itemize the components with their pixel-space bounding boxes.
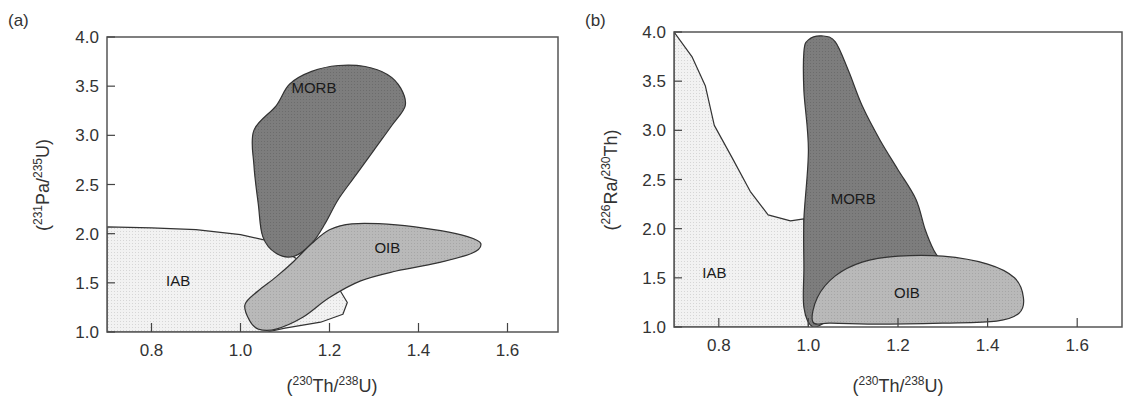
x-tick-label: 1.0 [229, 341, 253, 360]
region-label-morb: MORB [291, 79, 336, 96]
x-tick-label: 1.4 [407, 341, 431, 360]
y-tick-label: 2.0 [642, 220, 666, 239]
x-tick-label: 1.6 [1065, 336, 1089, 355]
region-label-morb: MORB [831, 190, 876, 207]
x-axis-title-a: (230Th/238U) [286, 374, 377, 396]
y-tick-label: 4.0 [75, 28, 99, 47]
regions-a [107, 65, 481, 332]
x-tick-label: 1.2 [886, 336, 910, 355]
y-tick-label: 3.0 [642, 121, 666, 140]
y-axis-title-b: (226Ra/230Th) [599, 129, 621, 230]
y-tick-label: 3.5 [642, 72, 666, 91]
y-tick-label: 2.5 [642, 171, 666, 190]
y-tick-label: 1.5 [75, 274, 99, 293]
panel-label-a: (a) [8, 11, 29, 30]
x-tick-label: 0.8 [140, 341, 164, 360]
y-tick-label: 3.5 [75, 77, 99, 96]
y-axis-title-a: (231Pa/235U) [31, 139, 53, 231]
x-tick-label: 1.2 [318, 341, 342, 360]
region-label-oib: OIB [894, 284, 920, 301]
x-axis-title-b: (230Th/238U) [852, 374, 943, 396]
panel-a: (a) 0.81.01.21.41.61.01.52.02.53.03.54.0… [8, 11, 558, 396]
panel-b: (b) 0.81.01.21.41.61.01.52.02.53.03.54.0… [585, 11, 1122, 396]
y-tick-label: 4.0 [642, 23, 666, 42]
y-tick-label: 2.5 [75, 176, 99, 195]
x-tick-label: 0.8 [707, 336, 731, 355]
region-label-iab: IAB [166, 272, 190, 289]
x-tick-label: 1.0 [797, 336, 821, 355]
y-tick-label: 1.0 [642, 318, 666, 337]
regions-b [674, 32, 1024, 328]
y-tick-label: 1.0 [75, 323, 99, 342]
region-label-iab: IAB [702, 264, 726, 281]
y-tick-label: 1.5 [642, 269, 666, 288]
region-label-oib: OIB [374, 239, 400, 256]
x-tick-label: 1.4 [976, 336, 1000, 355]
figure: (a) 0.81.01.21.41.61.01.52.02.53.03.54.0… [0, 0, 1146, 416]
y-tick-label: 2.0 [75, 225, 99, 244]
x-tick-label: 1.6 [496, 341, 520, 360]
region-iab [674, 32, 808, 327]
panel-label-b: (b) [585, 11, 606, 30]
y-tick-label: 3.0 [75, 126, 99, 145]
